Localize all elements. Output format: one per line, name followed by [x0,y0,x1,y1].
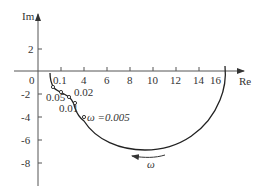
y-tick-label: -2 [21,88,30,100]
x-tick-label: 8 [127,74,133,86]
direction-label: ω [147,158,155,170]
y-tick-label: -4 [21,111,31,123]
x-tick-label: 14 [193,74,205,86]
frequency-label: 0.02 [74,86,93,98]
x-tick-label: 4 [81,74,87,86]
x-tick-label: 0.1 [53,74,67,86]
frequency-label: ω =0.005 [87,111,130,123]
x-tick-label: 6 [104,74,110,86]
y-tick-label: -8 [21,157,31,169]
x-axis-label: Re [239,75,251,87]
x-ticks [61,67,199,71]
x-tick-label: 16 [210,74,222,86]
x-tick-label: 10 [147,74,159,86]
frequency-label: 0.01 [59,102,78,114]
y-ticks [38,49,42,163]
y-tick-label: -6 [21,134,31,146]
y-axis-label: Im [22,10,35,22]
nyquist-diagram: Im Re 0 0.1 4 6 8 10 12 14 16 2 -2 -4 -6… [0,0,265,196]
origin-label: 0 [29,74,35,86]
x-tick-label: 12 [170,74,181,86]
y-tick-label: 2 [28,43,34,55]
